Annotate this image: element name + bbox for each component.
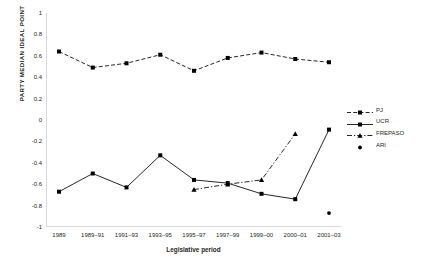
dashed-square-key [346, 104, 374, 115]
y-tick-label: 1 [16, 10, 42, 16]
x-axis-title: Legislative period [46, 246, 341, 253]
data-point-pj [293, 57, 297, 61]
y-tick-label: 0.4 [16, 74, 42, 80]
legend-item-ucr[interactable]: UCR [346, 116, 422, 128]
legend-item-ari[interactable]: ARI [346, 139, 422, 151]
dot-key [346, 139, 374, 150]
data-point-ucr [91, 172, 95, 176]
data-point-ucr [327, 128, 331, 132]
data-point-frepaso [259, 177, 264, 182]
y-tick-label: 0 [16, 117, 42, 123]
legend-label: ARI [374, 142, 386, 148]
dashdot-triangle-key [346, 127, 374, 138]
data-point-ucr [293, 197, 297, 201]
legend-label: UCR [374, 118, 389, 124]
data-point-frepaso [293, 131, 298, 136]
chart-figure: PARTY MEDIAN IDEAL POINT 10.80.60.40.20-… [0, 0, 425, 269]
data-series-layer [46, 13, 341, 227]
solid-square-key [346, 116, 374, 127]
y-tick-label: -0.8 [16, 203, 42, 209]
y-tick-label: -0.6 [16, 181, 42, 187]
data-point-pj [226, 56, 230, 60]
legend-label: PJ [374, 107, 383, 113]
legend-item-pj[interactable]: PJ [346, 104, 422, 116]
data-point-pj [192, 69, 196, 73]
data-point-pj [158, 53, 162, 57]
y-tick-label: -1 [16, 224, 42, 230]
legend-label: FREPASO [374, 130, 404, 136]
y-tick-label: -0.2 [16, 138, 42, 144]
data-point-pj [260, 51, 264, 55]
data-point-pj [91, 66, 95, 70]
series-line-pj [59, 52, 329, 71]
data-point-ari [327, 211, 331, 215]
data-point-ucr [192, 178, 196, 182]
plot-area: 19891989–911991–931993–951995–971997–991… [46, 13, 341, 227]
data-point-ucr [125, 185, 129, 189]
y-tick-label: 0.8 [16, 31, 42, 37]
chart-legend: PJUCRFREPASOARI [346, 104, 422, 150]
data-point-pj [125, 61, 129, 65]
y-axis-title: PARTY MEDIAN IDEAL POINT [18, 0, 25, 134]
data-point-ucr [57, 190, 61, 194]
data-point-ucr [260, 192, 264, 196]
data-point-pj [327, 60, 331, 64]
data-point-ucr [158, 153, 162, 157]
x-tick-label: 2001–03 [299, 232, 359, 238]
data-point-pj [57, 50, 61, 54]
y-tick-label: 0.2 [16, 96, 42, 102]
legend-item-frepaso[interactable]: FREPASO [346, 127, 422, 139]
y-tick-label: -0.4 [16, 160, 42, 166]
y-tick-label: 0.6 [16, 53, 42, 59]
